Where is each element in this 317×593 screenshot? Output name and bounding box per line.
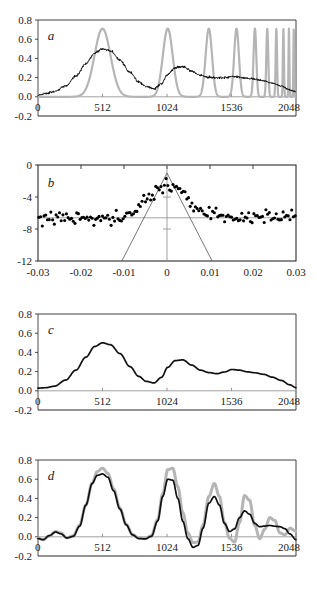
- panel-d: -0.20.00.20.40.60.80512102415362048d: [0, 452, 317, 580]
- scatter-point: [245, 216, 248, 219]
- scatter-point: [85, 216, 88, 219]
- scatter-point: [91, 217, 94, 220]
- scatter-point: [159, 185, 162, 188]
- scatter-point: [110, 224, 113, 227]
- scatter-point: [221, 214, 224, 217]
- scatter-point: [44, 213, 47, 216]
- scatter-point: [77, 212, 80, 215]
- scatter-point: [190, 201, 193, 204]
- scatter-point: [208, 206, 211, 209]
- scatter-point: [104, 216, 107, 219]
- scatter-point: [61, 213, 64, 216]
- scatter-point: [163, 184, 166, 187]
- axis-tick-label: -0.2: [15, 404, 32, 416]
- axis-tick-label: 1536: [221, 541, 244, 553]
- axis-tick-label: 0.2: [18, 71, 32, 83]
- scatter-point: [290, 208, 293, 211]
- axis-tick-label: 0.0: [18, 384, 32, 396]
- scatter-point: [141, 200, 144, 203]
- scatter-point: [135, 210, 138, 213]
- axis-tick-label: -0.03: [27, 266, 50, 278]
- scatter-point: [165, 177, 168, 180]
- scatter-point: [106, 214, 109, 217]
- axis-tick-label: 2048: [278, 101, 301, 113]
- scatter-point: [282, 210, 285, 213]
- axis-tick-label: 1024: [156, 541, 179, 553]
- axis-tick-label: 0.0: [18, 90, 32, 102]
- axis-tick-label: 0: [27, 159, 33, 171]
- scatter-point: [70, 217, 73, 220]
- scatter-point: [113, 220, 116, 223]
- scatter-point: [87, 219, 90, 222]
- axis-tick-label: -8: [23, 223, 33, 235]
- scatter-point: [239, 218, 242, 221]
- axis-tick-label: -0.01: [113, 266, 136, 278]
- axis-tick-label: 0.8: [18, 454, 32, 466]
- scatter-point: [65, 212, 68, 215]
- scatter-point: [139, 205, 142, 208]
- scatter-point: [73, 222, 76, 225]
- scatter-point: [144, 200, 147, 203]
- scatter-point: [275, 212, 278, 215]
- series-smooth-envelope-black: [38, 343, 296, 388]
- scatter-point: [213, 211, 216, 214]
- axis-tick-label: 0: [35, 541, 41, 553]
- axis-tick-label: 0.8: [18, 308, 32, 320]
- scatter-point: [92, 224, 95, 227]
- scatter-point: [41, 224, 44, 227]
- scatter-point: [53, 223, 56, 226]
- scatter-point: [58, 211, 61, 214]
- axis-tick-label: -12: [17, 255, 32, 267]
- panel-a: -0.20.00.20.40.60.80512102415362048a: [0, 12, 317, 140]
- scatter-point: [240, 212, 243, 215]
- scatter-point: [115, 209, 118, 212]
- axis-tick-label: 0.03: [286, 266, 306, 278]
- scatter-point: [178, 187, 181, 190]
- axis-tick-label: 1536: [221, 101, 244, 113]
- axis-tick-label: 512: [94, 101, 111, 113]
- axis-tick-label: 0.6: [18, 33, 32, 45]
- panel-letter-a: a: [48, 28, 55, 43]
- axis-tick-label: 0.2: [18, 365, 32, 377]
- scatter-point: [51, 218, 54, 221]
- scatter-point: [201, 209, 204, 212]
- scatter-point: [261, 215, 264, 218]
- scatter-point: [187, 196, 190, 199]
- axis-tick-label: 1536: [221, 395, 244, 407]
- scatter-point: [268, 211, 271, 214]
- axis-tick-label: 0.4: [18, 492, 32, 504]
- axis-tick-label: 0.4: [18, 346, 32, 358]
- scatter-point: [242, 219, 245, 222]
- scatter-point: [49, 211, 52, 214]
- plot-d: -0.20.00.20.40.60.80512102415362048d: [0, 452, 317, 580]
- axis-tick-label: 2048: [278, 541, 301, 553]
- panel-letter-d: d: [48, 468, 55, 483]
- scatter-point: [63, 219, 66, 222]
- axis-tick-label: 0.0: [18, 530, 32, 542]
- axis-tick-label: 0.6: [18, 327, 32, 339]
- axis-tick-label: -0.02: [70, 266, 93, 278]
- axis-tick-label: 0.8: [18, 14, 32, 26]
- scatter-point: [147, 192, 150, 195]
- scatter-point: [161, 191, 164, 194]
- scatter-point: [151, 194, 154, 197]
- axis-tick-label: 0: [35, 395, 41, 407]
- scatter-point: [153, 198, 156, 201]
- plot-c: -0.20.00.20.40.60.80512102415362048c: [0, 306, 317, 434]
- scatter-point: [294, 214, 297, 217]
- axis-tick-label: 2048: [278, 395, 301, 407]
- scatter-point: [189, 205, 192, 208]
- scatter-point: [263, 221, 266, 224]
- axis-tick-label: 1024: [156, 395, 179, 407]
- scatter-point: [230, 216, 233, 219]
- scatter-point: [273, 216, 276, 219]
- scatter-point: [192, 209, 195, 212]
- scatter-point: [142, 194, 145, 197]
- axis-tick-label: 0.02: [243, 266, 262, 278]
- scatter-point: [111, 216, 114, 219]
- axis-tick-label: 512: [94, 541, 111, 553]
- scatter-point: [123, 215, 126, 218]
- scatter-point: [280, 218, 283, 221]
- scatter-point: [149, 198, 152, 201]
- axis-tick-label: -4: [23, 191, 33, 203]
